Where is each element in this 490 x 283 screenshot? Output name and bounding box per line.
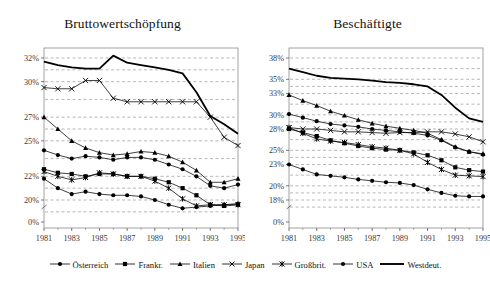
x-axis-tick-label: 1991 — [419, 234, 435, 243]
y-axis-tick-label: 0% — [273, 218, 284, 227]
legend-item-westdeut[interactable]: Westdeut. — [379, 259, 441, 271]
y-axis-tick-label: 20% — [269, 182, 284, 191]
x-axis-tick-label: 1981 — [36, 234, 52, 243]
x-axis-tick-label: 1983 — [309, 234, 325, 243]
data-point-marker — [111, 158, 115, 162]
x-axis-tick-label: 1989 — [147, 234, 163, 243]
chart-legend: ÖsterreichFrankr.ItalienJapanGroßbrit.US… — [0, 252, 490, 278]
data-point-marker — [97, 155, 101, 159]
data-point-marker — [83, 190, 87, 194]
x-axis-tick-label: 1981 — [281, 234, 297, 243]
x-axis-tick-label: 1995 — [475, 234, 490, 243]
data-point-marker — [167, 203, 171, 207]
y-axis-tick-label: 30% — [24, 78, 39, 87]
legend-label: Großbrit. — [295, 261, 327, 270]
data-point-marker — [384, 180, 388, 184]
data-point-marker — [301, 167, 305, 171]
x-axis-tick-label: 1987 — [119, 234, 135, 243]
data-point-marker — [412, 183, 416, 187]
y-axis-tick-label: 33% — [269, 89, 284, 98]
data-point-marker — [123, 262, 127, 266]
y-axis-tick-label: 22% — [24, 172, 39, 181]
legend-item-italien[interactable]: Italien — [169, 259, 215, 271]
data-point-marker — [125, 193, 129, 197]
x-axis-tick-label: 1987 — [364, 234, 380, 243]
y-axis-tick-label: 23% — [269, 160, 284, 169]
data-point-marker — [467, 194, 471, 198]
x-axis-tick-label: 1993 — [202, 234, 218, 243]
data-point-marker — [139, 194, 143, 198]
chart-plot-left: 0%20%22%25%27%30%32%19811983198519871989… — [0, 0, 245, 250]
data-point-marker — [425, 153, 429, 157]
legend-label: USA — [356, 261, 373, 270]
legend-key-westdeut-icon — [379, 259, 405, 271]
data-point-marker — [208, 204, 212, 208]
data-point-marker — [153, 198, 157, 202]
data-point-marker — [167, 180, 171, 184]
legend-item-sterreich[interactable]: Österreich — [49, 259, 109, 271]
y-axis-tick-label: 25% — [24, 137, 39, 146]
y-axis-tick-label: 38% — [269, 54, 284, 63]
y-axis-tick-label: 30% — [269, 111, 284, 120]
data-point-marker — [42, 177, 46, 181]
y-axis-tick-label: 35% — [269, 75, 284, 84]
data-point-marker — [315, 172, 319, 176]
legend-key-frankr-icon — [114, 259, 136, 271]
data-point-marker — [70, 172, 74, 176]
data-point-marker — [301, 116, 305, 120]
data-point-marker — [180, 206, 184, 210]
data-point-marker — [70, 192, 74, 196]
data-point-marker — [222, 203, 226, 207]
data-point-marker — [57, 262, 61, 266]
data-point-marker — [56, 186, 60, 190]
legend-item-japan[interactable]: Japan — [221, 259, 265, 271]
data-point-marker — [194, 174, 198, 178]
plot-frame — [44, 48, 238, 228]
data-point-marker — [287, 162, 291, 166]
data-point-marker — [439, 191, 443, 195]
data-point-marker — [328, 122, 332, 126]
legend-item-grobrit[interactable]: Großbrit. — [271, 259, 327, 271]
x-axis-tick-label: 1983 — [64, 234, 80, 243]
legend-item-usa[interactable]: USA — [332, 259, 373, 271]
figure-root: Bruttowertschöpfung 0%20%22%25%27%30%32%… — [0, 0, 490, 283]
data-point-marker — [467, 168, 471, 172]
data-point-marker — [453, 194, 457, 198]
legend-key-grossbrit-icon — [271, 259, 293, 271]
y-axis-tick-label: 32% — [24, 54, 39, 63]
chart-plot-right: 0%18%20%23%25%28%30%33%35%38%19811983198… — [245, 0, 490, 250]
chart-panel-bruttowertschoepfung: Bruttowertschöpfung 0%20%22%25%27%30%32%… — [0, 0, 245, 250]
data-point-marker — [83, 154, 87, 158]
y-axis-tick-label: 18% — [269, 196, 284, 205]
legend-key-japan-icon — [221, 259, 243, 271]
y-axis-tick-label: 25% — [269, 146, 284, 155]
data-point-marker — [194, 205, 198, 209]
y-axis-tick-label: 28% — [269, 125, 284, 134]
chart-panel-beschaeftigte: Beschäftigte 0%18%20%23%25%28%30%33%35%3… — [245, 0, 490, 250]
data-point-marker — [439, 158, 443, 162]
data-point-marker — [153, 158, 157, 162]
x-axis-tick-label: 1991 — [174, 234, 190, 243]
data-point-marker — [97, 192, 101, 196]
data-point-marker — [481, 170, 485, 174]
legend-label: Italien — [193, 261, 215, 270]
data-point-marker — [56, 153, 60, 157]
x-axis-tick-label: 1985 — [336, 234, 352, 243]
legend-key-oesterreich-icon — [49, 259, 71, 271]
y-axis-tick-label: 20% — [24, 196, 39, 205]
data-point-marker — [398, 181, 402, 185]
legend-label: Japan — [245, 261, 265, 270]
x-axis-tick-label: 1995 — [230, 234, 245, 243]
data-point-marker — [453, 165, 457, 169]
data-point-marker — [328, 174, 332, 178]
data-point-marker — [236, 183, 240, 187]
legend-item-frankr[interactable]: Frankr. — [114, 259, 163, 271]
legend-label: Westdeut. — [407, 261, 441, 270]
data-point-marker — [222, 186, 226, 190]
data-point-marker — [342, 175, 346, 179]
data-point-marker — [180, 186, 184, 190]
data-point-marker — [70, 156, 74, 160]
data-point-marker — [139, 155, 143, 159]
data-point-marker — [287, 112, 291, 116]
legend-label: Frankr. — [138, 261, 163, 270]
